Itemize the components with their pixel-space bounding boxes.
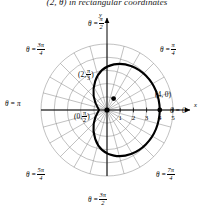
theta-7pi-over-4-label: θ =7π4 — [156, 167, 175, 181]
x-axis-label: x — [194, 101, 197, 108]
point-origin — [104, 107, 109, 112]
svg-text:2: 2 — [132, 114, 136, 122]
point-label-0-pi: (0,π2) — [74, 110, 90, 124]
theta-pi-over-2-label: θ =π2 — [88, 16, 104, 30]
point-label-4-0: (4, 0) — [155, 91, 171, 98]
theta-zero-label: θ = 0 — [170, 108, 186, 115]
svg-text:1: 1 — [118, 114, 122, 122]
svg-text:3: 3 — [145, 114, 149, 122]
theta-pi-label: θ = π — [5, 101, 21, 108]
point-label-2-pi-over-3: (2,π3) — [78, 68, 94, 82]
theta-3pi-over-2-label: θ =3π2 — [88, 192, 107, 206]
theta-3pi-over-4-label: θ =3π4 — [26, 42, 45, 56]
polar-graph-figure: (2, θ) in rectangular coordinates — [0, 0, 214, 223]
point-4-0 — [157, 108, 162, 113]
x-axis-tick-labels: 1 2 3 4 5 — [118, 114, 175, 122]
theta-5pi-over-4-label: θ =5π4 — [26, 167, 45, 181]
point-2-pi-over-3 — [111, 96, 116, 101]
theta-pi-over-4-label: θ =π4 — [160, 42, 176, 56]
